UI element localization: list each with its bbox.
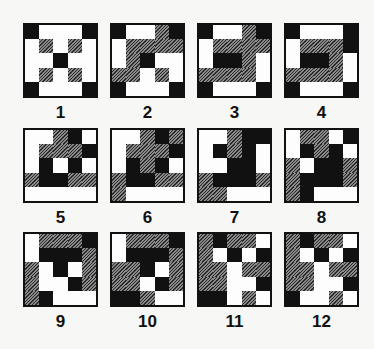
pattern-12: 12 (284, 232, 359, 330)
grid-cell (329, 262, 343, 276)
grid-cell (53, 130, 67, 144)
pattern-11: 11 (197, 232, 272, 330)
grid-cell (169, 262, 183, 276)
grid-cell (140, 53, 154, 67)
grid-cell (199, 130, 213, 144)
grid-cell (82, 130, 96, 144)
grid-cell (300, 173, 314, 187)
pattern-7: 7 (197, 128, 272, 226)
grid-cell (25, 277, 39, 291)
grid-cell (53, 68, 67, 82)
grid-cell (126, 144, 140, 158)
pattern-grid (23, 128, 98, 203)
grid-cell (343, 173, 357, 187)
grid-cell (286, 53, 300, 67)
grid-cell (314, 262, 328, 276)
grid-cell (140, 39, 154, 53)
grid-cell (68, 291, 82, 305)
grid-cell (53, 25, 67, 39)
grid-cell (39, 25, 53, 39)
grid-cell (329, 53, 343, 67)
grid-cell (169, 277, 183, 291)
grid-cell (329, 158, 343, 172)
grid-cell (25, 39, 39, 53)
grid-cell (68, 53, 82, 67)
grid-cell (53, 291, 67, 305)
pattern-10: 10 (110, 232, 185, 330)
grid-cell (286, 158, 300, 172)
pattern-5: 5 (23, 128, 98, 226)
grid-cell (53, 39, 67, 53)
grid-cell (300, 82, 314, 96)
grid-cell (112, 173, 126, 187)
grid-cell (300, 158, 314, 172)
grid-cell (199, 25, 213, 39)
grid-cell (112, 53, 126, 67)
grid-cell (155, 248, 169, 262)
pattern-grid (110, 23, 185, 98)
grid-cell (256, 144, 270, 158)
grid-cell (300, 39, 314, 53)
grid-cell (300, 248, 314, 262)
grid-cell (314, 68, 328, 82)
grid-cell (314, 25, 328, 39)
grid-cell (126, 291, 140, 305)
grid-cell (39, 248, 53, 262)
grid-cell (39, 187, 53, 201)
grid-cell (343, 130, 357, 144)
grid-cell (227, 248, 241, 262)
grid-cell (286, 173, 300, 187)
grid-cell (140, 234, 154, 248)
grid-cell (199, 39, 213, 53)
grid-cell (256, 25, 270, 39)
grid-cell (286, 277, 300, 291)
grid-cell (329, 68, 343, 82)
grid-cell (227, 53, 241, 67)
grid-cell (39, 144, 53, 158)
grid-cell (227, 25, 241, 39)
grid-cell (300, 291, 314, 305)
grid-cell (343, 82, 357, 96)
grid-cell (140, 158, 154, 172)
grid-cell (169, 144, 183, 158)
grid-cell (25, 262, 39, 276)
grid-cell (25, 82, 39, 96)
grid-cell (199, 277, 213, 291)
grid-cell (155, 173, 169, 187)
grid-cell (140, 291, 154, 305)
grid-cell (256, 158, 270, 172)
grid-cell (213, 173, 227, 187)
grid-cell (256, 277, 270, 291)
grid-cell (199, 234, 213, 248)
grid-cell (82, 144, 96, 158)
pattern-9: 9 (23, 232, 98, 330)
grid-cell (39, 291, 53, 305)
grid-cell (140, 144, 154, 158)
grid-cell (39, 68, 53, 82)
pattern-label: 12 (284, 313, 359, 330)
pattern-grid (197, 232, 272, 307)
grid-cell (343, 277, 357, 291)
grid-cell (256, 248, 270, 262)
grid-cell (227, 82, 241, 96)
grid-cell (126, 53, 140, 67)
grid-cell (300, 53, 314, 67)
grid-cell (227, 130, 241, 144)
grid-cell (242, 173, 256, 187)
grid-cell (256, 262, 270, 276)
grid-cell (53, 234, 67, 248)
grid-cell (155, 130, 169, 144)
grid-cell (242, 262, 256, 276)
grid-cell (25, 25, 39, 39)
grid-cell (68, 277, 82, 291)
grid-cell (53, 277, 67, 291)
pattern-label: 5 (23, 209, 98, 226)
grid-cell (314, 39, 328, 53)
grid-cell (53, 173, 67, 187)
grid-cell (329, 291, 343, 305)
grid-cell (39, 82, 53, 96)
grid-cell (343, 187, 357, 201)
grid-cell (213, 277, 227, 291)
grid-cell (126, 158, 140, 172)
pattern-grid (197, 128, 272, 203)
